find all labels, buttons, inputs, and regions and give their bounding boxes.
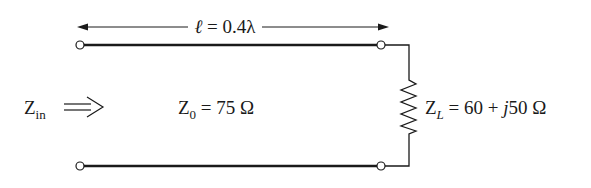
characteristic-impedance-label: Z0 = 75 Ω — [178, 97, 254, 122]
top-conductor — [76, 41, 409, 76]
bottom-conductor — [76, 138, 409, 170]
double-arrow-icon — [64, 97, 103, 117]
input-impedance-label: Zin — [24, 97, 46, 122]
terminal-top-right — [377, 41, 385, 49]
length-label: ℓ = 0.4λ — [194, 16, 256, 37]
load-resistor-icon — [401, 76, 416, 138]
terminal-top-left — [76, 41, 84, 49]
terminal-bottom-left — [76, 162, 84, 170]
terminal-bottom-right — [377, 162, 385, 170]
load-impedance-label: ZL = 60 + j50 Ω — [425, 97, 546, 122]
transmission-line-diagram: ℓ = 0.4λ Zin Z0 = 75 Ω ZL = 60 + j50 Ω — [0, 0, 591, 188]
